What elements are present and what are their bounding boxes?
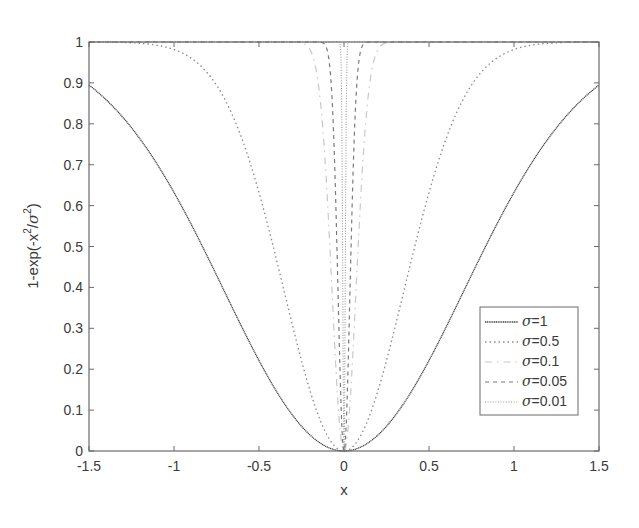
x-tick-label: 0 xyxy=(340,458,348,474)
y-tick-label: 0.2 xyxy=(64,361,84,377)
legend-entry-sigma-0.5: σ=0.5 xyxy=(522,333,559,349)
y-tick-label: 0.1 xyxy=(64,402,84,418)
legend-value: =0.1 xyxy=(532,353,560,369)
x-tick-label: -0.5 xyxy=(247,458,271,474)
sigma-symbol: σ xyxy=(522,333,532,349)
y-tick-label: 1 xyxy=(75,34,83,50)
x-tick-label: 1.5 xyxy=(589,458,609,474)
y-tick-label: 0.8 xyxy=(64,116,84,132)
y-axis-label: 1-exp(-x2/σ2) xyxy=(22,203,42,289)
legend-entry-sigma-0.05: σ=0.05 xyxy=(522,373,567,389)
legend-value: =0.01 xyxy=(532,393,568,409)
y-tick-label: 0.4 xyxy=(64,279,84,295)
y-tick-label: 0.9 xyxy=(64,75,84,91)
legend: σ=1 σ=0.5 σ=0.1 σ=0.05 σ=0.01 xyxy=(480,307,578,415)
legend-value: =0.05 xyxy=(532,373,568,389)
legend-entry-sigma-0.1: σ=0.1 xyxy=(522,353,559,369)
legend-entry-sigma-0.01: σ=0.01 xyxy=(522,393,567,409)
y-tick-label: 0.5 xyxy=(64,239,84,255)
sigma-symbol: σ xyxy=(522,313,532,329)
y-label-suffix: ) xyxy=(24,203,41,208)
x-tick-label: 1 xyxy=(510,458,518,474)
y-label-prefix: 1-exp(-x xyxy=(24,233,41,289)
y-tick-label: 0 xyxy=(75,443,83,459)
sigma-symbol: σ xyxy=(522,393,532,409)
y-tick-label: 0.6 xyxy=(64,198,84,214)
x-axis-label: x xyxy=(340,481,348,498)
sigma-symbol: σ xyxy=(522,353,532,369)
chart-figure: -1.5-1-0.500.511.5 00.10.20.30.40.50.60.… xyxy=(0,0,639,528)
x-tick-label: -1 xyxy=(168,458,181,474)
legend-entry-sigma-1: σ=1 xyxy=(522,313,548,329)
x-tick-label: -1.5 xyxy=(77,458,101,474)
y-tick-label: 0.3 xyxy=(64,320,84,336)
x-tick-label: 0.5 xyxy=(419,458,439,474)
legend-value: =0.5 xyxy=(532,333,560,349)
sigma-symbol: σ xyxy=(522,373,532,389)
y-tick-label: 0.7 xyxy=(64,157,84,173)
legend-value: =1 xyxy=(532,313,548,329)
